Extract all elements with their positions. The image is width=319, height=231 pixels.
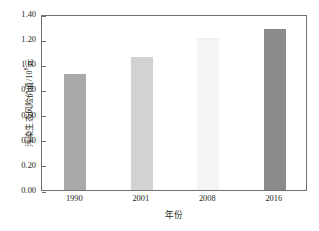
y-tick-label: 1.00 bbox=[6, 60, 36, 69]
plot-area bbox=[41, 15, 307, 191]
x-tick-label: 2016 bbox=[244, 193, 304, 204]
x-tick-label: 2001 bbox=[111, 193, 171, 204]
bar-1990 bbox=[64, 74, 86, 189]
bar-2016 bbox=[264, 29, 286, 190]
y-tick-label: 0.60 bbox=[6, 111, 36, 120]
y-tick-label: 0.80 bbox=[6, 85, 36, 94]
y-tick-label: 0.20 bbox=[6, 161, 36, 170]
x-axis-tick-labels: 1990200120082016 bbox=[41, 193, 307, 207]
y-tick-label: 0.40 bbox=[6, 136, 36, 145]
y-tick-label: 0.00 bbox=[6, 186, 36, 195]
y-tick-label: 1.20 bbox=[6, 35, 36, 44]
bar-2008 bbox=[197, 38, 219, 190]
bars-layer bbox=[42, 16, 306, 190]
y-axis-tick-labels: 0.000.200.400.600.801.001.201.40 bbox=[6, 9, 36, 193]
x-tick-label: 2008 bbox=[177, 193, 237, 204]
x-tick-label: 1990 bbox=[44, 193, 104, 204]
x-axis-title: 年份 bbox=[41, 208, 307, 220]
bar-chart: 污染生态风险价值/108元 0.000.200.400.600.801.001.… bbox=[0, 0, 319, 231]
bar-2001 bbox=[131, 57, 153, 190]
y-tick-label: 1.40 bbox=[6, 10, 36, 19]
